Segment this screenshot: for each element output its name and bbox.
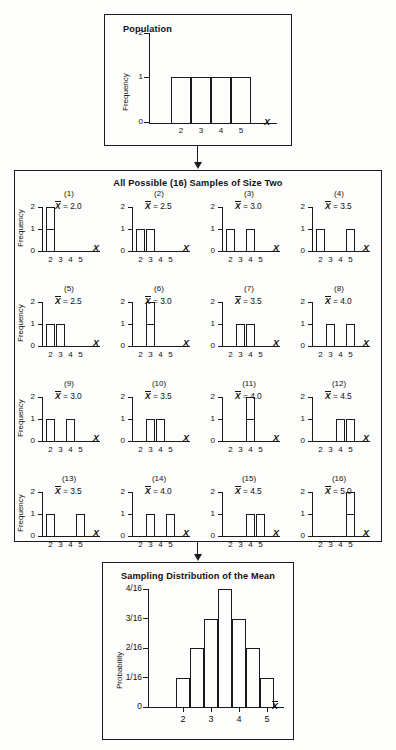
sample-ytick-label-1: 1	[294, 509, 305, 518]
sample-xtick-label-3: 3	[326, 350, 336, 359]
sample-bar-15-x4	[246, 514, 255, 536]
sample-xtick-label-5: 5	[256, 350, 266, 359]
sample-x-axis	[42, 251, 100, 252]
sample-label-15: (15)	[205, 474, 293, 483]
sample-label-11: (11)	[205, 379, 293, 388]
sample-xtick-label-3: 3	[56, 540, 66, 549]
sample-ytick-0	[308, 441, 313, 442]
sampling-distribution-panel: Sampling Distribution of the Mean Probab…	[102, 562, 294, 740]
sample-label-9: (9)	[25, 379, 113, 388]
sample-cell-4: (4)X = 3.50122345X	[295, 189, 383, 273]
sample-ytick-label-1: 1	[204, 414, 215, 423]
population-y-axis-title: Frequency	[121, 73, 130, 111]
sample-xtick-label-3: 3	[326, 445, 336, 454]
sample-xtick-label-4: 4	[246, 255, 256, 264]
sample-x-axis-name: X	[363, 243, 369, 253]
sample-xtick-label-5: 5	[256, 255, 266, 264]
sample-x-axis	[222, 536, 280, 537]
sample-xtick-label-4: 4	[336, 540, 346, 549]
sample-bar-13-x2	[46, 514, 55, 536]
sample-ytick-label-2: 2	[24, 297, 35, 306]
sample-ytick-0	[38, 441, 43, 442]
sample-xtick-label-4: 4	[66, 540, 76, 549]
sample-ytick-2	[218, 397, 223, 398]
statistics-figure: Population 0 1 2 Frequency 2 3 4 5 X	[0, 0, 396, 750]
population-panel: Population 0 1 2 Frequency 2 3 4 5 X	[104, 14, 292, 146]
sample-x-axis	[312, 536, 370, 537]
sample-x-axis	[42, 441, 100, 442]
sample-cell-8: (8)X = 4.00122345X	[295, 284, 383, 368]
sample-ytick-label-2: 2	[204, 392, 215, 401]
sample-x-axis-name: X	[93, 433, 99, 443]
sample-ytick-2	[308, 302, 313, 303]
population-ytick-label-0: 0	[129, 117, 143, 126]
sampling-xtick-label-3: 5	[261, 714, 273, 724]
sample-label-2: (2)	[115, 189, 203, 198]
sample-xtick-label-4: 4	[336, 255, 346, 264]
population-ytick-label-1: 1	[129, 72, 143, 81]
sample-ytick-label-2: 2	[114, 297, 125, 306]
sample-xtick-label-5: 5	[166, 540, 176, 549]
sample-x-axis-name: X	[273, 338, 279, 348]
sampling-ytick-3	[143, 618, 149, 619]
sample-ytick-label-2: 2	[204, 202, 215, 211]
sample-xtick-label-4: 4	[66, 445, 76, 454]
sample-ytick-label-1: 1	[114, 224, 125, 233]
population-xtick-label-4: 4	[216, 126, 226, 135]
sample-bar-9-x4	[66, 419, 75, 441]
sample-ytick-label-1: 1	[24, 224, 35, 233]
sample-cell-10: (10)X = 3.50122345X	[115, 379, 203, 463]
sampling-xtick-0	[183, 707, 184, 712]
sample-xtick-label-4: 4	[336, 445, 346, 454]
population-bar-5	[231, 77, 251, 124]
population-xtick-label-2: 2	[176, 126, 186, 135]
sample-ytick-1	[38, 229, 43, 230]
sample-xtick-label-5: 5	[346, 350, 356, 359]
sample-xtick-label-2: 2	[316, 445, 326, 454]
sample-ytick-label-2: 2	[294, 392, 305, 401]
sample-xtick-label-5: 5	[76, 445, 86, 454]
sampling-xtick-label-2: 4	[233, 714, 245, 724]
sample-xtick-label-2: 2	[226, 350, 236, 359]
sample-mean-value-8: = 4.0	[331, 296, 352, 306]
sample-cell-12: (12)X = 4.50122345X	[295, 379, 383, 463]
sample-mean-label-12: X = 4.5	[325, 391, 352, 401]
sample-mean-value-12: = 4.5	[331, 391, 352, 401]
sample-xtick-label-2: 2	[136, 350, 146, 359]
sample-xtick-label-3: 3	[236, 350, 246, 359]
arrow-samples-to-sampling-distribution	[193, 542, 203, 562]
sample-bar-3-x2	[226, 229, 235, 251]
sample-label-1: (1)	[25, 189, 113, 198]
samples-panel: All Possible (16) Samples of Size Two (1…	[14, 170, 382, 542]
sample-xtick-label-3: 3	[236, 540, 246, 549]
sample-xtick-label-5: 5	[166, 255, 176, 264]
sample-ytick-0	[218, 346, 223, 347]
sampling-ytick-2	[143, 648, 149, 649]
sample-ytick-1	[218, 324, 223, 325]
sampling-bar-5	[260, 678, 274, 708]
sample-xtick-label-2: 2	[316, 255, 326, 264]
sample-mean-label-13: X = 3.5	[55, 486, 82, 496]
sample-ytick-0	[128, 441, 133, 442]
sample-xtick-label-2: 2	[226, 255, 236, 264]
sample-ytick-label-2: 2	[114, 392, 125, 401]
sample-x-axis-name: X	[93, 243, 99, 253]
sample-mean-value-13: = 3.5	[61, 486, 82, 496]
sample-bar-4-x5	[346, 229, 355, 251]
sample-x-axis-name: X	[183, 433, 189, 443]
sample-ytick-2	[38, 302, 43, 303]
population-bar-4	[211, 77, 231, 124]
sample-xtick-label-5: 5	[166, 350, 176, 359]
sample-bar-split-16	[346, 514, 355, 515]
sampling-ytick-label-2: 2/16	[115, 642, 142, 652]
sample-xtick-label-5: 5	[346, 540, 356, 549]
population-ytick-2	[144, 33, 150, 34]
population-bar-2	[171, 77, 191, 124]
sample-ytick-label-1: 1	[24, 509, 35, 518]
sample-bar-split-6	[146, 324, 155, 325]
sample-xtick-label-4: 4	[336, 350, 346, 359]
sample-ytick-label-0: 0	[204, 436, 215, 445]
sample-ytick-label-2: 2	[204, 487, 215, 496]
sample-bar-5-x2	[46, 324, 55, 346]
sample-mean-label-5: X = 2.5	[55, 296, 82, 306]
